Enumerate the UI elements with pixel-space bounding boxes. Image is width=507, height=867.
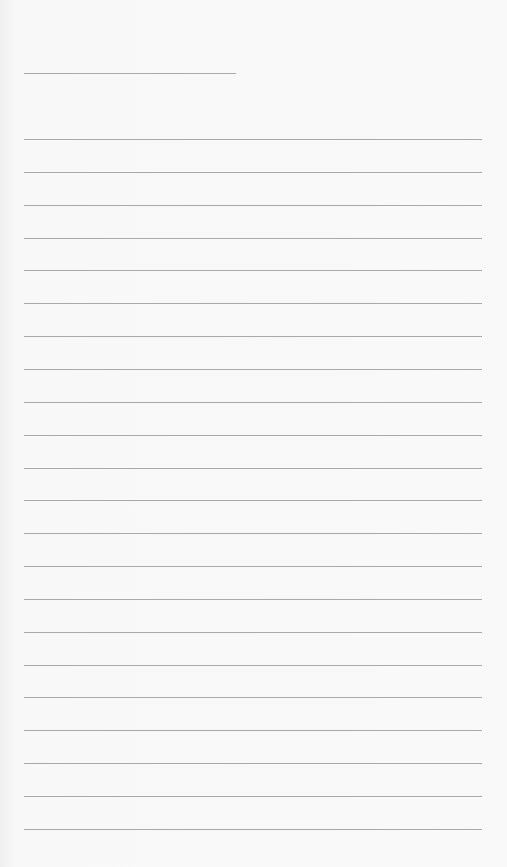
ruled-line xyxy=(24,763,482,764)
ruled-line xyxy=(24,533,482,534)
ruled-line xyxy=(24,435,482,436)
ruled-line xyxy=(24,829,482,830)
header-line xyxy=(24,73,236,74)
ruled-line xyxy=(24,303,482,304)
ruled-line xyxy=(24,665,482,666)
ruled-line xyxy=(24,566,482,567)
ruled-line xyxy=(24,336,482,337)
ruled-line xyxy=(24,500,482,501)
ruled-line xyxy=(24,697,482,698)
ruled-line xyxy=(24,402,482,403)
lined-paper-page xyxy=(0,0,507,867)
ruled-line xyxy=(24,172,482,173)
ruled-line xyxy=(24,238,482,239)
ruled-line xyxy=(24,139,482,140)
ruled-line xyxy=(24,369,482,370)
ruled-line xyxy=(24,205,482,206)
ruled-line xyxy=(24,730,482,731)
ruled-line xyxy=(24,468,482,469)
ruled-line xyxy=(24,599,482,600)
ruled-line xyxy=(24,632,482,633)
ruled-line xyxy=(24,796,482,797)
ruled-line xyxy=(24,270,482,271)
